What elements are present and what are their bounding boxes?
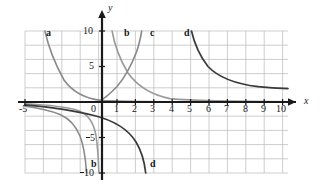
curve-b-upper xyxy=(112,31,288,102)
x-axis xyxy=(18,98,296,106)
x-tick-label-9: 9 xyxy=(261,104,266,114)
x-axis-name: x xyxy=(304,96,308,106)
x-tick-label-0: 0 xyxy=(91,104,96,114)
y-tick-label-10: 10 xyxy=(83,26,93,36)
curve-a-upper xyxy=(45,31,288,102)
x-tick-label-8: 8 xyxy=(243,104,248,114)
curve-label-d-bottom: d xyxy=(150,159,156,169)
x-tick-label-6: 6 xyxy=(206,104,211,114)
y-tick-label--10: 10 xyxy=(80,168,94,178)
y-axis-name: y xyxy=(108,3,112,13)
x-tick-label-7: 7 xyxy=(224,104,229,114)
x-tick-label-1: 1 xyxy=(114,104,119,114)
curve-label-a: a xyxy=(46,28,51,38)
x-tick-label-4: 4 xyxy=(169,104,174,114)
x-tick-label-5: 5 xyxy=(187,104,192,114)
x-tick-label-2: 2 xyxy=(132,104,137,114)
y-axis xyxy=(98,10,106,180)
curve-d-right xyxy=(192,31,289,89)
y-tick-label--5: 5 xyxy=(86,133,95,143)
graph-figure: a b c d b d -5 0 1 2 3 4 5 6 7 8 9 10 10… xyxy=(0,0,321,188)
curve-label-b-top: b xyxy=(124,28,130,38)
x-tick-label--5: -5 xyxy=(19,104,27,114)
curve-label-c: c xyxy=(150,28,154,38)
x-tick-label-3: 3 xyxy=(150,104,155,114)
x-tick-label-10: 10 xyxy=(276,104,286,114)
y-tick-label-5: 5 xyxy=(89,61,94,71)
curve-label-d-top: d xyxy=(184,28,190,38)
